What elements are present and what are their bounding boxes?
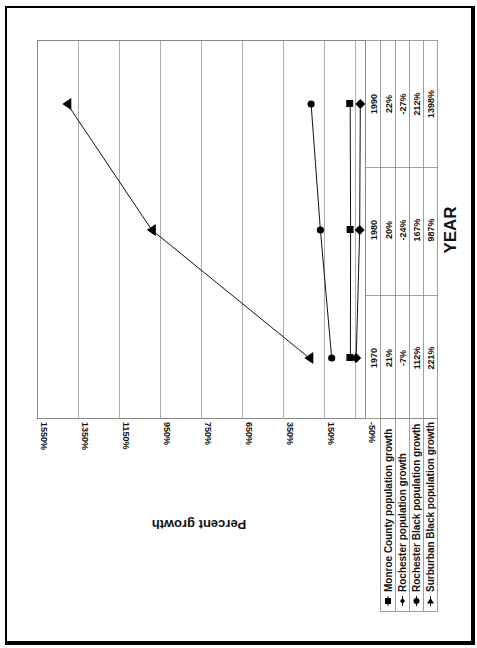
marker-square-icon	[346, 100, 353, 107]
table-cell: -7%	[398, 350, 408, 366]
tick-label: 350%	[285, 422, 295, 445]
marker-circle-icon	[308, 100, 315, 107]
tick-label: 750%	[203, 422, 213, 445]
table-year-row: 1970 1980 1990	[369, 94, 379, 368]
table-cell: 22%	[384, 95, 394, 113]
data-table-values: 21% 20% 22% -7% -24% -27% 112% 167% 212%…	[384, 90, 436, 370]
table-cell: 1398%	[426, 90, 436, 118]
x-axis-title: YEAR	[441, 206, 460, 253]
legend-diamond-icon	[400, 598, 405, 604]
y-axis-title: Percent growth	[152, 517, 247, 532]
marker-square-icon	[347, 226, 354, 233]
year-label: 1980	[369, 220, 379, 240]
legend-label-surburban-black: Surburban Black population growth	[425, 422, 436, 592]
legend-label-rochester: Rochester population growth	[397, 453, 408, 592]
table-cell: 212%	[412, 92, 422, 115]
legend-square-icon	[385, 598, 391, 604]
legend-label-monroe: Monroe County population growth	[383, 429, 394, 592]
table-cell: -27%	[398, 93, 408, 114]
marker-circle-icon	[328, 354, 335, 361]
table-cell: 112%	[412, 347, 422, 370]
value-axis-ticks: 1550% 1350% 1150% 950% 750% 650% 350% 15…	[39, 422, 377, 450]
table-cell: 987%	[426, 218, 436, 241]
legend-label-rochester-black: Rochester Black population growth	[411, 424, 422, 592]
table-cell: 221%	[426, 346, 436, 369]
tick-label: 650%	[244, 422, 254, 445]
table-cell: 167%	[412, 218, 422, 241]
tick-label: 1350%	[80, 422, 90, 450]
tick-label: 150%	[326, 422, 336, 445]
tick-label: -50%	[367, 422, 377, 443]
table-cell: 21%	[384, 349, 394, 367]
tick-label: 1150%	[121, 422, 131, 450]
table-cell: 20%	[384, 221, 394, 239]
table-cell: -24%	[398, 219, 408, 240]
tick-label: 950%	[162, 422, 172, 445]
legend-triangle-icon	[427, 598, 434, 604]
rotated-line-chart: 1550% 1350% 1150% 950% 750% 650% 350% 15…	[0, 0, 477, 648]
legend-circle-icon	[414, 598, 420, 604]
year-label: 1970	[369, 348, 379, 368]
tick-label: 1550%	[39, 422, 49, 450]
marker-circle-icon	[317, 226, 324, 233]
year-label: 1990	[369, 94, 379, 114]
